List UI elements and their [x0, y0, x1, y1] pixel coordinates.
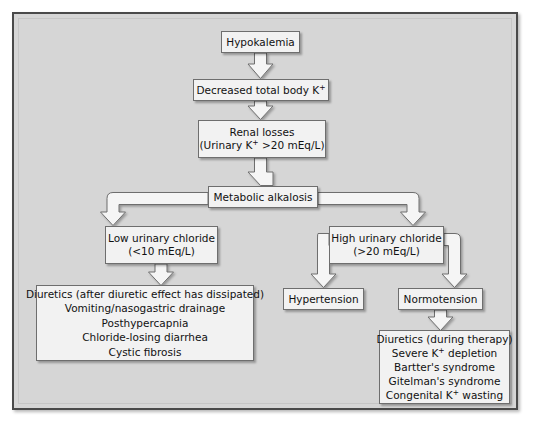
node-metabolic-alkalosis-label: Metabolic alkalosis	[214, 191, 313, 204]
renal-line2-post: >20 mEq/L)	[259, 139, 325, 151]
normotension-cause-item: Severe K+ depletion	[392, 346, 498, 360]
normotension-cause-item5-pre: Congenital K	[386, 389, 453, 401]
node-hypokalemia[interactable]: Hypokalemia	[221, 31, 300, 53]
arrow-hypokalemia-to-decreased	[248, 53, 273, 79]
node-decreased-total-body-k-label: Decreased total body K+	[196, 84, 325, 97]
node-hypertension-label: Hypertension	[288, 293, 358, 306]
node-high-urinary-chloride[interactable]: High urinary chloride (>20 mEq/L)	[329, 226, 444, 264]
arrow-decreased-to-renal	[248, 101, 273, 120]
node-normotension-causes[interactable]: Diuretics (during therapy) Severe K+ dep…	[379, 330, 510, 404]
normotension-cause-item5-post: wasting	[459, 389, 503, 401]
low-chloride-cause-item: Vomiting/nasogastric drainage	[65, 301, 225, 316]
normotension-cause-item: Diuretics (during therapy)	[376, 332, 512, 346]
low-chloride-cause-item: Diuretics (after diuretic effect has dis…	[26, 287, 264, 302]
node-high-urinary-chloride-line2: (>20 mEq/L)	[353, 245, 420, 258]
node-high-urinary-chloride-line1: High urinary chloride	[331, 232, 441, 245]
renal-line2-pre: (Urinary K	[199, 139, 252, 151]
node-hypokalemia-label: Hypokalemia	[226, 36, 295, 49]
node-metabolic-alkalosis[interactable]: Metabolic alkalosis	[208, 186, 318, 208]
flowchart-figure: Hypokalemia Decreased total body K+ Rena…	[0, 0, 536, 432]
node-low-urinary-chloride-line2: (<10 mEq/L)	[128, 245, 195, 258]
normotension-cause-item: Congenital K+ wasting	[386, 388, 503, 402]
node-renal-losses[interactable]: Renal losses (Urinary K+ >20 mEq/L)	[198, 120, 326, 158]
arrow-metabolic-to-highcl	[318, 193, 426, 226]
node-renal-losses-line2: (Urinary K+ >20 mEq/L)	[199, 139, 324, 152]
arrow-renal-to-metabolic	[248, 158, 273, 186]
normotension-cause-item: Gitelman's syndrome	[389, 374, 501, 388]
arrow-normotension-to-rightlist	[428, 310, 453, 331]
arrow-lowcl-to-leftlist	[149, 264, 174, 286]
low-chloride-cause-item: Cystic fibrosis	[109, 345, 182, 360]
decreased-text: Decreased total body K	[196, 84, 319, 96]
node-normotension[interactable]: Normotension	[398, 288, 483, 310]
normotension-cause-item2-pre: Severe K	[392, 347, 439, 359]
node-low-urinary-chloride-line1: Low urinary chloride	[108, 232, 215, 245]
node-hypertension[interactable]: Hypertension	[283, 288, 364, 310]
arrow-highcl-to-normotension	[442, 234, 467, 288]
node-normotension-label: Normotension	[404, 293, 478, 306]
normotension-cause-item2-post: depletion	[445, 347, 498, 359]
node-low-urinary-chloride[interactable]: Low urinary chloride (<10 mEq/L)	[105, 226, 218, 264]
node-renal-losses-line1: Renal losses	[230, 126, 295, 139]
node-low-chloride-causes[interactable]: Diuretics (after diuretic effect has dis…	[36, 285, 254, 361]
decreased-superscript: +	[319, 82, 325, 91]
node-decreased-total-body-k[interactable]: Decreased total body K+	[193, 79, 329, 101]
arrow-metabolic-to-lowcl	[101, 193, 209, 226]
low-chloride-cause-item: Posthypercapnia	[102, 316, 189, 331]
normotension-cause-item: Bartter's syndrome	[394, 360, 495, 374]
low-chloride-cause-item: Chloride-losing diarrhea	[82, 330, 208, 345]
